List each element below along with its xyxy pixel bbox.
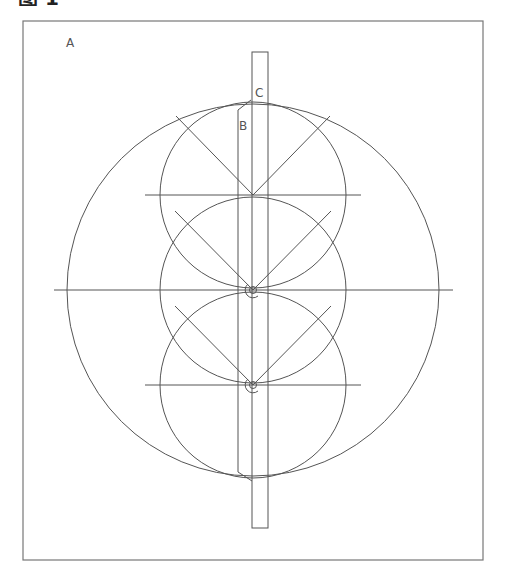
geometric-diagram: A B C bbox=[0, 0, 508, 580]
bottom-v-lines bbox=[175, 306, 331, 385]
label-c: C bbox=[255, 86, 263, 100]
label-a: A bbox=[66, 36, 75, 50]
middle-v-lines bbox=[175, 211, 331, 290]
label-b: B bbox=[239, 119, 247, 133]
top-v-lines bbox=[176, 116, 330, 195]
